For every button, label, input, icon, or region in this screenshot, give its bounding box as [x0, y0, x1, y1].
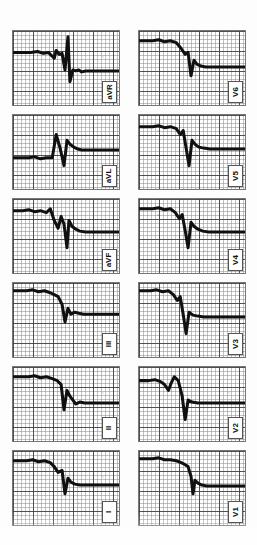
lead-label-text: aVR	[106, 84, 114, 100]
lead-label-iii: III	[102, 333, 117, 355]
ecg-waveform-path	[13, 37, 119, 82]
lead-label-text: V5	[231, 171, 239, 181]
lead-label-v2: V2	[228, 417, 243, 439]
ecg-waveform-path	[139, 458, 245, 494]
lead-panel-v1[interactable]: V1	[138, 450, 246, 526]
ecg-waveform-path	[139, 208, 245, 248]
ecg-sheet: aVR V6 aVL	[0, 0, 257, 545]
lead-label-v1: V1	[228, 501, 243, 523]
lead-label-v5: V5	[228, 165, 243, 187]
ecg-waveform-path	[139, 377, 245, 420]
lead-label-text: V1	[231, 507, 239, 517]
lead-panel-v3[interactable]: V3	[138, 282, 246, 358]
lead-label-text: III	[105, 341, 113, 348]
lead-label-avl: aVL	[102, 165, 117, 187]
lead-label-v3: V3	[228, 333, 243, 355]
ecg-waveform-path	[13, 134, 119, 165]
lead-panel-v4[interactable]: V4	[138, 198, 246, 274]
lead-panel-v5[interactable]: V5	[138, 114, 246, 190]
lead-label-avr: aVR	[102, 81, 117, 103]
lead-label-text: II	[105, 426, 113, 430]
lead-panel-avl[interactable]: aVL	[12, 114, 120, 190]
ecg-waveform-path	[13, 460, 119, 494]
lead-panel-i[interactable]: I	[12, 450, 120, 526]
lead-label-ii: II	[102, 417, 117, 439]
lead-label-v4: V4	[228, 249, 243, 271]
lead-label-text: V2	[231, 423, 239, 433]
lead-label-i: I	[102, 501, 117, 523]
ecg-waveform-path	[13, 376, 119, 410]
ecg-lead-grid: aVR V6 aVL	[12, 30, 246, 538]
lead-panel-v6[interactable]: V6	[138, 30, 246, 106]
lead-panel-avf[interactable]: aVF	[12, 198, 120, 274]
lead-label-text: aVF	[106, 253, 114, 268]
ecg-waveform-path	[13, 290, 119, 322]
lead-panel-v2[interactable]: V2	[138, 366, 246, 442]
ecg-waveform-path	[139, 126, 245, 166]
lead-label-text: V6	[231, 87, 239, 97]
lead-panel-ii[interactable]: II	[12, 366, 120, 442]
lead-label-avf: aVF	[102, 249, 117, 271]
lead-panel-iii[interactable]: III	[12, 282, 120, 358]
lead-panel-avr[interactable]: aVR	[12, 30, 120, 106]
lead-label-text: aVL	[106, 169, 114, 184]
lead-label-text: I	[105, 511, 113, 513]
ecg-waveform-path	[13, 209, 119, 248]
lead-label-text: V4	[231, 255, 239, 265]
lead-label-v6: V6	[228, 81, 243, 103]
lead-label-text: V3	[231, 339, 239, 349]
ecg-waveform-path	[139, 290, 245, 334]
ecg-waveform-path	[139, 40, 245, 76]
